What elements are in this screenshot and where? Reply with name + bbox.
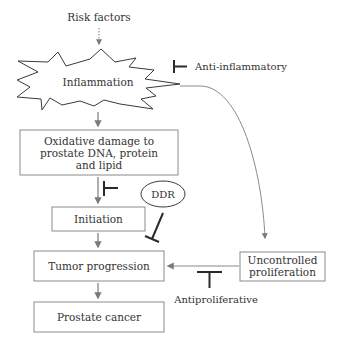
risk-factors-label: Risk factors — [67, 11, 130, 23]
ddr-label: DDR — [151, 189, 175, 200]
uncontrolled-proliferation-line-1: Uncontrolled — [248, 254, 318, 266]
oxidative-damage-line-2: prostate DNA, protein — [40, 147, 158, 159]
initiation-label: Initiation — [74, 213, 123, 225]
oxidative-damage-line-1: Oxidative damage to — [44, 135, 154, 147]
prostate-cancer-label: Prostate cancer — [57, 311, 142, 323]
anti-inflammatory-label: Anti-inflammatory — [194, 61, 287, 72]
uncontrolled-proliferation-line-2: proliferation — [249, 266, 316, 278]
tumor-progression-label: Tumor progression — [48, 260, 150, 272]
pathway-diagram: Risk factors Inflammation Anti-inflammat… — [0, 0, 341, 350]
antiproliferative-inhibitor-icon — [197, 272, 222, 288]
antiproliferative-label: Antiproliferative — [173, 294, 258, 305]
ddr-tumor-inhibitor-icon — [145, 213, 163, 242]
inflammation-to-proliferation-curved-arrow — [180, 86, 265, 238]
anti-inflammatory-inhibitor-icon — [174, 60, 187, 73]
inflammation-label: Inflammation — [62, 76, 133, 88]
oxidative-damage-line-3: and lipid — [76, 159, 123, 171]
ddr-oxidative-inhibitor-icon — [104, 181, 118, 196]
